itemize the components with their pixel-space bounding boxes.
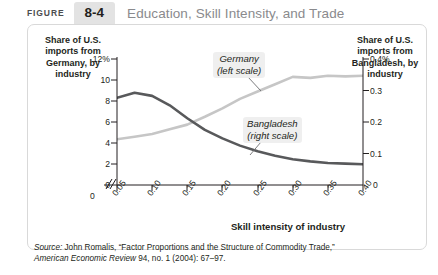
source-note: Source: John Romalis, “Factor Proportion… [34,243,424,264]
right-tick-02: 0.2 [370,117,400,127]
right-tick-03: 0.3 [370,86,400,96]
germany-series-label: Germany (left scale) [213,52,265,78]
source-line2: 94, no. 1 (2004): 67–97. [136,254,226,263]
figure-number-badge: 8-4 [74,2,116,24]
bangladesh-series-label: Bangladesh (right scale) [243,117,302,143]
source-line1: John Romalis, “Factor Proportions and th… [62,243,335,252]
figure-title: Education, Skill Intensity, and Trade [127,6,344,21]
bangladesh-label-line1: Bangladesh [247,118,298,130]
left-tick-10: 10 [80,75,110,85]
right-tick-0: 0 [373,180,403,190]
right-tick-04: 0.4% [370,54,400,64]
left-tick-12: 12% [80,54,110,64]
x-origin-tick: 0 [90,191,95,201]
source-prefix: Source: [34,243,62,252]
bangladesh-series-line [117,93,363,164]
bangladesh-label-line2: (right scale) [247,130,298,142]
left-tick-6: 6 [80,117,110,127]
x-axis-title: Skill intensity of industry [178,221,398,232]
germany-series-line [117,76,363,140]
left-tick-2: 2 [80,159,110,169]
chart-canvas [117,59,363,185]
germany-label-line1: Germany [217,53,261,65]
left-tick-0: 0 [80,180,110,190]
source-journal: American Economic Review [34,254,136,263]
left-tick-8: 8 [80,96,110,106]
plot-area [117,59,363,185]
figure-word-label: FIGURE [27,8,65,18]
figure-panel: Share of U.S. imports from Germany, by i… [27,24,427,250]
left-tick-4: 4 [80,138,110,148]
germany-label-line2: (left scale) [217,65,261,77]
figure-header: FIGURE 8-4 Education, Skill Intensity, a… [0,0,438,26]
right-tick-01: 0.1 [370,149,400,159]
